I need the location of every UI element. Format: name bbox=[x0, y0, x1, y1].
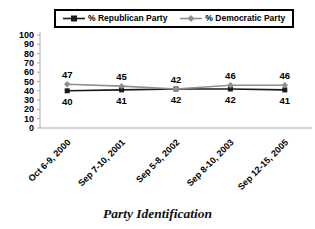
y-tick-label: 10 bbox=[24, 114, 34, 124]
chart-legend: % Republican Party % Democratic Party bbox=[54, 9, 294, 28]
legend-item-democratic: % Democratic Party bbox=[180, 13, 285, 23]
legend-item-republican: % Republican Party bbox=[63, 13, 167, 23]
x-tick-label: Sep 7-10, 2001 bbox=[76, 137, 127, 188]
data-label: 46 bbox=[225, 70, 236, 81]
y-tick-label: 60 bbox=[24, 67, 34, 77]
chart-title: Party Identification bbox=[0, 206, 315, 222]
legend-label-republican: % Republican Party bbox=[88, 13, 167, 23]
y-tick-label: 20 bbox=[24, 104, 34, 114]
data-label: 41 bbox=[280, 95, 291, 106]
democratic-line-diamond-icon bbox=[180, 14, 202, 23]
data-marker-square bbox=[65, 88, 70, 93]
y-tick-label: 50 bbox=[24, 77, 34, 87]
y-tick-label: 80 bbox=[24, 49, 34, 59]
plot-area: 0102030405060708090100Oct 6-9, 2000Sep 7… bbox=[0, 0, 315, 205]
data-label: 45 bbox=[116, 71, 127, 82]
x-tick-label: Oct 6-9, 2000 bbox=[26, 137, 72, 183]
y-tick-label: 70 bbox=[24, 58, 34, 68]
data-label: 47 bbox=[62, 69, 73, 80]
data-label: 42 bbox=[171, 94, 182, 105]
x-tick-label: Sep 12-15, 2005 bbox=[236, 137, 290, 191]
y-tick-label: 40 bbox=[24, 86, 34, 96]
republican-line-square-icon bbox=[63, 14, 85, 23]
y-tick-label: 30 bbox=[24, 95, 34, 105]
data-label: 46 bbox=[280, 70, 291, 81]
data-marker-diamond bbox=[64, 81, 70, 87]
x-tick-label: Sep 5-8, 2002 bbox=[134, 137, 181, 184]
data-label: 41 bbox=[116, 95, 127, 106]
y-tick-label: 0 bbox=[29, 123, 34, 133]
legend-label-democratic: % Democratic Party bbox=[205, 13, 285, 23]
x-tick-label: Sep 8-10, 2003 bbox=[185, 137, 236, 188]
y-tick-label: 90 bbox=[24, 39, 34, 49]
y-tick-label: 100 bbox=[19, 30, 34, 40]
party-identification-chart: 0102030405060708090100Oct 6-9, 2000Sep 7… bbox=[0, 0, 315, 229]
data-label: 42 bbox=[225, 94, 236, 105]
data-label: 40 bbox=[62, 96, 73, 107]
data-label: 42 bbox=[171, 74, 182, 85]
